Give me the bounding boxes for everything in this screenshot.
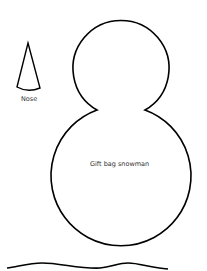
wavy-cut-line <box>7 263 168 269</box>
snowman-title-label: Gift bag snowman <box>90 160 149 168</box>
nose-label: Nose <box>21 95 37 103</box>
nose-cone-shape <box>17 43 40 90</box>
snowman-outline <box>51 20 191 245</box>
snowman-template-drawing <box>0 0 207 271</box>
